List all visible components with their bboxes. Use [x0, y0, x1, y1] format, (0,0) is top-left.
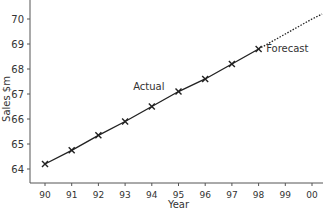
x-marker-icon	[95, 132, 101, 138]
x-tick-label: 90	[39, 190, 51, 200]
y-tick-label: 64	[11, 164, 24, 175]
x-marker-icon	[69, 147, 75, 153]
axes: 646566676869709091929394959697989900	[11, 0, 323, 200]
y-tick-label: 66	[11, 114, 24, 125]
x-marker-icon	[176, 89, 182, 95]
y-tick-label: 69	[11, 39, 24, 50]
x-marker-icon	[122, 119, 128, 125]
x-tick-label: 94	[146, 190, 158, 200]
x-marker-icon	[202, 76, 208, 82]
y-tick-label: 65	[11, 139, 24, 150]
y-tick-label: 68	[11, 64, 24, 75]
x-marker-icon	[42, 161, 48, 167]
x-tick-label: 98	[253, 190, 265, 200]
x-tick-label: 97	[226, 190, 237, 200]
y-tick-label: 67	[11, 89, 24, 100]
x-marker-icon	[149, 104, 155, 110]
annotation-actual: Actual	[133, 81, 164, 92]
x-tick-label: 92	[93, 190, 104, 200]
x-tick-label: 91	[66, 190, 77, 200]
x-tick-label: 96	[199, 190, 211, 200]
series	[42, 14, 322, 167]
y-axis-label: Sales $m	[1, 76, 12, 122]
y-tick-label: 70	[11, 14, 24, 25]
line-chart: 646566676869709091929394959697989900 Yea…	[0, 0, 325, 219]
x-marker-icon	[229, 61, 235, 67]
x-axis-label: Year	[167, 199, 190, 210]
labels: YearSales $mActualForecast	[1, 43, 309, 210]
annotation-forecast: Forecast	[266, 43, 308, 54]
x-tick-label: 99	[280, 190, 292, 200]
x-tick-label: 93	[119, 190, 130, 200]
x-tick-label: 00	[306, 190, 318, 200]
